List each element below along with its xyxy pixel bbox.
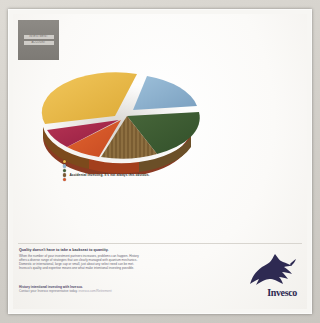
legend-item [63,177,203,182]
page-content: INVESTMENT ACCOUNT [13,14,231,309]
advertisement-copy: Quality doesn't have to take a backseat … [18,243,231,305]
copy-headline: Quality doesn't have to take a backseat … [19,248,109,253]
divider [18,243,231,244]
legend-color-dot [63,169,66,172]
legend-color-dot [63,173,66,176]
cta-line-2-text: Contact your Invesco representative toda… [19,289,78,293]
copy-paragraph: Domestic or international, large cap or … [19,262,145,270]
legend-color-dot [63,164,66,167]
pie-slices [42,72,200,158]
copy-body: When the number of your investment partn… [19,254,145,270]
account-tab-line-2: ACCOUNT [24,41,54,45]
copy-paragraph: When the number of your investment partn… [19,254,145,262]
chart-legend: Accidental investing. It's not always th… [63,159,203,182]
pie-slice-gold [42,72,137,124]
pie-chart [29,54,204,174]
pie-slice-light-blue [133,76,197,110]
pie-chart-svg [29,54,204,174]
cta-line-2: Contact your Invesco representative toda… [19,289,151,293]
account-tab-line-1: INVESTMENT [24,35,54,39]
legend-color-dot [63,160,66,163]
call-to-action: History intentional investing with Inves… [19,285,151,294]
printed-page: INVESTMENT ACCOUNT [8,9,231,314]
cta-url[interactable]: invesco.com/Retirement [78,289,111,293]
scanner-background: INVESTMENT ACCOUNT [0,0,231,323]
legend-tagline: Accidental investing. It's not always th… [69,173,149,177]
legend-color-dot [63,178,66,181]
